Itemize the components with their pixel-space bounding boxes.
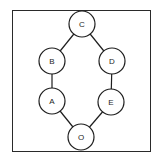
node-label: C [79,20,85,29]
node-d: D [99,48,125,74]
node-b: B [39,48,65,74]
node-label: O [78,133,84,142]
node-label: D [109,57,115,66]
node-label: E [108,98,113,107]
node-label: B [49,57,54,66]
node-a: A [39,88,65,114]
node-c: C [69,11,95,37]
node-e: E [98,89,124,115]
node-label: A [49,97,55,106]
node-o: O [68,124,94,150]
graph-diagram: C B D A E O [0,0,161,163]
edges [52,24,112,137]
